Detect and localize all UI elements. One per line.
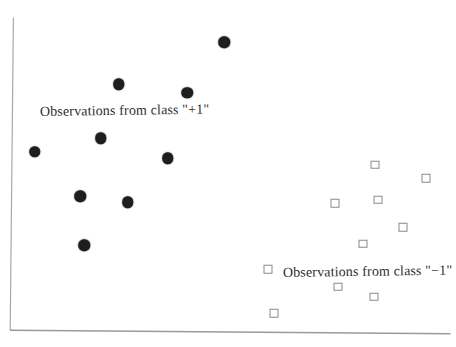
data-point-class-plus1: [181, 87, 193, 99]
data-point-class-plus1: [74, 191, 86, 203]
scatter-points: [0, 0, 456, 347]
data-point-class-minus1: [334, 282, 343, 291]
data-point-class-minus1: [374, 196, 383, 205]
data-point-class-plus1: [162, 153, 174, 165]
data-point-class-minus1: [398, 223, 407, 232]
data-point-class-minus1: [263, 265, 272, 274]
data-point-class-plus1: [113, 78, 125, 90]
data-point-class-plus1: [218, 36, 230, 48]
data-point-class-minus1: [270, 309, 279, 318]
data-point-class-plus1: [78, 239, 90, 251]
class-minus1-label: Observations from class "−1": [283, 263, 453, 281]
data-point-class-minus1: [370, 160, 379, 169]
scatter-figure: Observations from class "+1" Observation…: [0, 0, 456, 347]
data-point-class-minus1: [370, 293, 379, 302]
data-point-class-plus1: [29, 146, 41, 158]
data-point-class-minus1: [422, 174, 431, 183]
data-point-class-minus1: [358, 239, 367, 248]
class-plus1-label: Observations from class "+1": [40, 101, 210, 119]
data-point-class-plus1: [122, 196, 134, 208]
data-point-class-minus1: [330, 199, 339, 208]
data-point-class-plus1: [95, 132, 107, 144]
